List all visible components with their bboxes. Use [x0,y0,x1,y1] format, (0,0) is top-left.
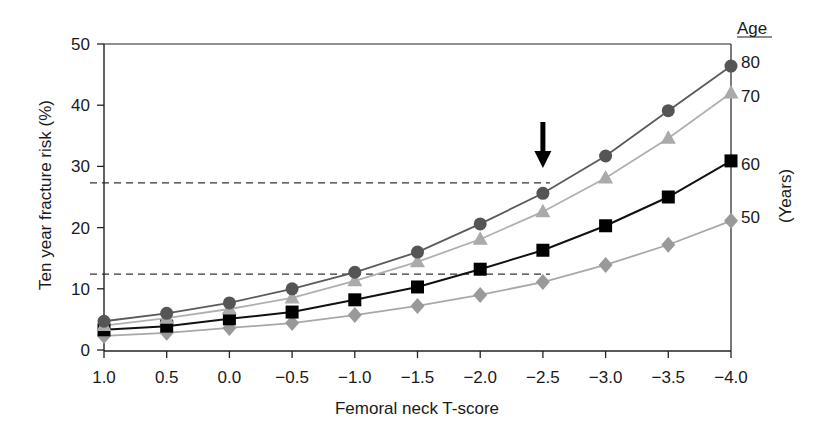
data-point-square-age-60 [348,293,361,306]
y-tick-label: 20 [71,219,90,238]
x-tick-label: −3.0 [589,368,623,387]
data-point-circle-age-80 [536,187,549,200]
y-tick-label: 50 [71,35,90,54]
data-point-diamond-age-50 [348,307,362,323]
y-tick-label: 40 [71,96,90,115]
x-tick-label: 1.0 [92,368,116,387]
y-axis-ticks: 01020304050 [71,35,104,360]
data-point-diamond-age-50 [724,213,738,229]
x-tick-label: −1.0 [338,368,372,387]
x-tick-label: 0.5 [155,368,179,387]
arrow-shaft [540,122,545,153]
data-point-circle-age-80 [286,282,299,295]
data-point-circle-age-80 [160,307,173,320]
data-point-triangle-age-70 [724,85,739,99]
data-point-triangle-age-70 [661,130,676,144]
data-point-circle-age-80 [223,296,236,309]
data-point-square-age-60 [725,154,738,167]
y-tick-label: 30 [71,157,90,176]
data-point-diamond-age-50 [411,298,425,314]
data-point-circle-age-80 [411,246,424,259]
data-point-circle-age-80 [599,149,612,162]
x-tick-label: −0.5 [275,368,309,387]
legend-title: Age [737,19,767,38]
data-point-diamond-age-50 [661,237,675,253]
data-point-circle-age-80 [98,315,111,328]
data-point-square-age-60 [474,263,487,276]
series-markers [97,60,739,344]
x-tick-label: −2.5 [526,368,560,387]
data-point-diamond-age-50 [473,287,487,303]
data-point-square-age-60 [599,219,612,232]
data-point-square-age-60 [662,191,675,204]
data-point-triangle-age-70 [473,231,488,245]
fracture-risk-chart: 01020304050 1.00.50.0−0.5−1.0−1.5−2.0−2.… [0,0,826,440]
x-tick-label: −1.5 [401,368,435,387]
x-tick-label: −4.0 [714,368,748,387]
data-point-triangle-age-70 [535,204,550,218]
data-point-square-age-60 [286,306,299,319]
y-axis-title: Ten year fracture risk (%) [36,100,55,290]
data-point-diamond-age-50 [536,274,550,290]
data-point-square-age-60 [536,244,549,257]
x-tick-label: −2.0 [463,368,497,387]
y-tick-label: 0 [81,341,90,360]
data-point-circle-age-80 [725,60,738,73]
x-axis-title: Femoral neck T-score [335,399,499,418]
y-tick-label: 10 [71,280,90,299]
data-point-circle-age-80 [474,217,487,230]
series-label-age-50: 50 [741,208,760,227]
series-label-age-60: 60 [741,155,760,174]
data-point-circle-age-80 [662,104,675,117]
legend-units-label: (Years) [776,169,795,223]
series-label-age-70: 70 [741,87,760,106]
series-age-labels: 80706050 [741,53,760,227]
x-tick-label: −3.5 [652,368,686,387]
arrow-head [534,151,551,168]
data-point-square-age-60 [411,280,424,293]
x-axis-ticks: 1.00.50.0−0.5−1.0−1.5−2.0−2.5−3.0−3.5−4.… [92,351,748,387]
series-lines [104,66,731,336]
series-label-age-80: 80 [741,53,760,72]
data-point-triangle-age-70 [598,170,613,184]
arrow-annotation [534,122,551,168]
data-point-circle-age-80 [348,266,361,279]
series-line-age-50 [104,221,731,336]
x-tick-label: 0.0 [218,368,242,387]
data-point-diamond-age-50 [599,257,613,273]
